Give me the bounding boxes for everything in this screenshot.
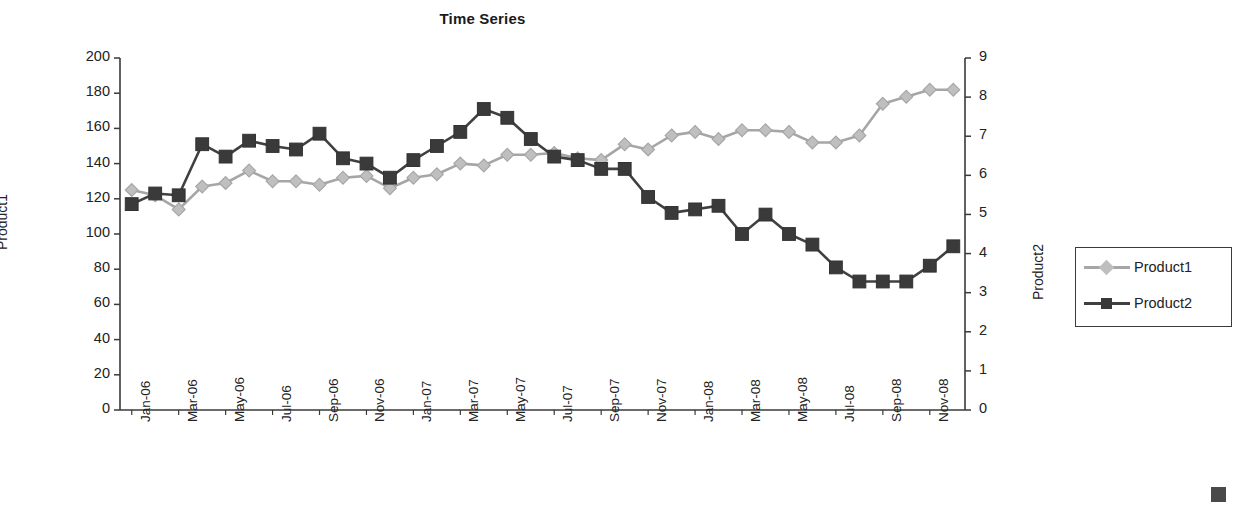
y-right-tick: 0 (979, 400, 987, 416)
x-tick: Mar-08 (748, 379, 763, 422)
y-left-tick: 40 (55, 330, 110, 346)
x-tick: Mar-06 (185, 379, 200, 422)
y-left-tick: 120 (55, 189, 110, 205)
legend-diamond-icon (1084, 259, 1130, 275)
x-tick: Jan-08 (701, 381, 716, 422)
y-right-tick: 2 (979, 322, 987, 338)
stray-square-marker (1211, 487, 1226, 502)
x-tick: May-08 (795, 377, 810, 422)
x-tick: Jan-07 (419, 381, 434, 422)
y-right-tick: 6 (979, 165, 987, 181)
y-right-tick: 9 (979, 48, 987, 64)
y-right-axis-title: Product2 (1030, 244, 1046, 300)
y-right-tick: 4 (979, 244, 987, 260)
time-series-chart: Time Series Product1 Product2 0204060801… (0, 0, 1253, 521)
y-left-tick: 160 (55, 118, 110, 134)
y-right-tick: 1 (979, 361, 987, 377)
legend-item-product1[interactable]: Product1 (1084, 256, 1192, 278)
y-left-tick: 20 (55, 365, 110, 381)
x-tick: Nov-07 (654, 378, 669, 422)
y-right-tick: 3 (979, 283, 987, 299)
y-right-tick: 5 (979, 204, 987, 220)
y-left-tick: 180 (55, 83, 110, 99)
x-tick: Nov-06 (372, 378, 387, 422)
y-left-tick: 140 (55, 154, 110, 170)
x-tick: Jul-06 (279, 385, 294, 422)
y-left-tick: 80 (55, 259, 110, 275)
y-left-tick: 60 (55, 294, 110, 310)
y-left-tick: 100 (55, 224, 110, 240)
chart-legend: Product1 Product2 (1075, 247, 1232, 327)
x-tick: Sep-08 (889, 378, 904, 422)
legend-label-product2: Product2 (1134, 295, 1192, 311)
y-left-axis-title: Product1 (0, 194, 10, 250)
y-right-tick: 7 (979, 126, 987, 142)
y-left-tick: 200 (55, 48, 110, 64)
plot-area (0, 0, 1253, 521)
x-tick: May-07 (513, 377, 528, 422)
x-tick: Jul-08 (842, 385, 857, 422)
x-tick: Nov-08 (936, 378, 951, 422)
x-tick: Jul-07 (560, 385, 575, 422)
legend-square-icon (1084, 295, 1130, 311)
x-tick: Jan-06 (138, 381, 153, 422)
x-tick: Sep-07 (607, 378, 622, 422)
x-tick: Sep-06 (326, 378, 341, 422)
x-tick: May-06 (232, 377, 247, 422)
x-tick: Mar-07 (466, 379, 481, 422)
legend-item-product2[interactable]: Product2 (1084, 292, 1192, 314)
legend-label-product1: Product1 (1134, 259, 1192, 275)
y-left-tick: 0 (55, 400, 110, 416)
y-right-tick: 8 (979, 87, 987, 103)
